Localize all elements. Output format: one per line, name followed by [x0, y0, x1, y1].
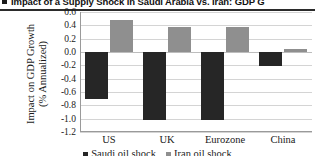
x-axis-tick-label: China	[254, 133, 312, 146]
bar	[85, 52, 108, 99]
chart-page: Impact of a Supply Shock in Saudi Arabia…	[0, 0, 315, 156]
y-axis-title: Impact on GDP Growth (% Annualized)	[24, 14, 50, 134]
page-title: Impact of a Supply Shock in Saudi Arabia…	[11, 0, 265, 7]
bar	[168, 27, 191, 52]
y-axis-tick-label: -0.4	[50, 74, 76, 84]
chart-legend: Saudi oil shockIran oil shock	[0, 146, 315, 156]
x-axis-tick-label: Eurozone	[196, 133, 254, 146]
y-axis-tick-label: -1.0	[50, 114, 76, 124]
legend-label: Iran oil shock	[174, 148, 232, 156]
y-axis-tick-label: -0.8	[50, 100, 76, 110]
y-axis-tick-label: -0.6	[50, 87, 76, 97]
bar	[259, 52, 282, 66]
x-axis-tick-labels: USUKEurozoneChina	[80, 133, 312, 147]
legend-swatch-icon	[83, 152, 88, 157]
legend-swatch-icon	[166, 152, 171, 157]
y-axis-title-line1: Impact on GDP Growth	[25, 24, 36, 124]
bullet-square-icon	[2, 0, 7, 4]
bar	[284, 49, 307, 52]
bar-group	[138, 12, 196, 132]
y-axis-tick-label: 0.0	[50, 47, 76, 57]
bar	[110, 20, 133, 52]
legend-item[interactable]: Iran oil shock	[166, 148, 232, 156]
y-axis-tick-label: 0.4	[50, 20, 76, 30]
legend-label: Saudi oil shock	[91, 148, 156, 156]
bar-group	[196, 12, 254, 132]
y-axis-title-line2: (% Annualized)	[37, 41, 48, 107]
bar	[226, 27, 249, 52]
slide-title-row: Impact of a Supply Shock in Saudi Arabia…	[0, 0, 315, 8]
y-axis-tick-label: 0.6	[50, 7, 76, 17]
bar	[201, 52, 224, 120]
x-axis-tick-label: US	[80, 133, 138, 146]
y-axis-tick-labels: 0.60.40.20.0-0.2-0.4-0.6-0.8-1.0-1.2	[50, 12, 76, 132]
title-divider	[0, 9, 315, 11]
y-axis-tick-label: -1.2	[50, 127, 76, 137]
plot-area	[80, 12, 312, 132]
bar-series-container	[80, 12, 312, 132]
x-axis-tick-label: UK	[138, 133, 196, 146]
bar-chart: Impact on GDP Growth (% Annualized) 0.60…	[0, 12, 315, 156]
bar-group	[80, 12, 138, 132]
bar-group	[254, 12, 312, 132]
legend-item[interactable]: Saudi oil shock	[83, 148, 156, 156]
bar	[143, 52, 166, 120]
y-axis-tick-label: 0.2	[50, 34, 76, 44]
y-axis-tick-label: -0.2	[50, 60, 76, 70]
